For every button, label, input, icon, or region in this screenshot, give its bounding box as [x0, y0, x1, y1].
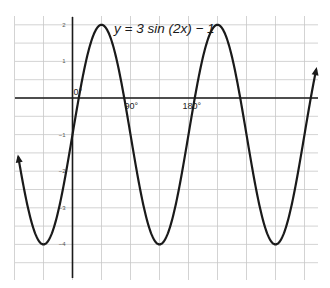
y-tick-label: −4 [59, 241, 67, 247]
y-axis-tick-labels: 21−1−2−3−4 [59, 22, 67, 248]
equation-label: y = 3 sin (2x) − 1 [113, 21, 215, 36]
grid-lines [15, 16, 319, 280]
arrow-head-right-icon [312, 67, 319, 76]
x-axis-tick-labels: 0°90°180° [74, 87, 202, 111]
arrow-head-left-icon [16, 154, 23, 162]
y-tick-label: −1 [59, 132, 67, 138]
sine-graph: 21−1−2−3−4 0°90°180° y = 3 sin (2x) − 1 [0, 0, 330, 288]
